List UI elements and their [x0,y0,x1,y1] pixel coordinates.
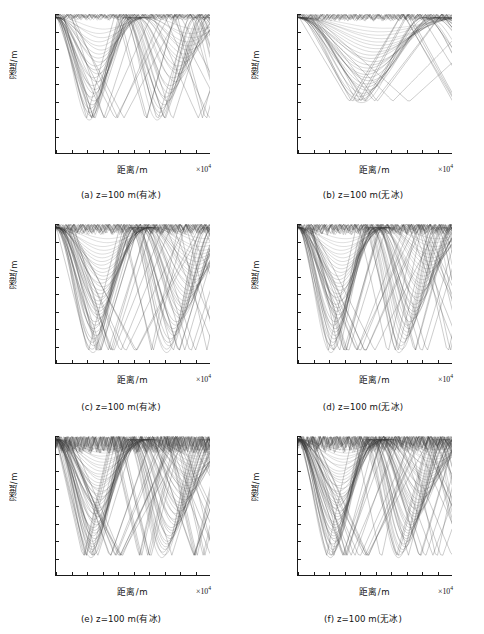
x-axis-multiplier-b: ×104 [438,163,453,174]
plot-area-b: 05001 0001 5002 0002 5003 0003 5004 0000… [297,14,452,154]
plot-area-f: 05001 0001 5002 0002 5003 0003 5004 0000… [297,436,452,576]
ray-paths-c [56,224,210,363]
y-tick-mark [56,224,59,225]
x-tick-mark [345,360,346,363]
x-tick-mark [72,150,73,153]
x-tick-mark [298,150,299,153]
x-tick-mark [422,572,423,575]
x-tick-mark [72,572,73,575]
y-tick-mark [56,559,59,560]
x-axis-label-d: 距离/m [297,373,452,385]
x-tick-mark [103,150,104,153]
figure-row-1: 深度/m 05001 0001 5002 0002 5003 0003 5004… [0,0,484,210]
y-tick-mark [298,294,301,295]
x-tick-mark [360,150,361,153]
panel-caption-e: (e) z=100 m(有冰) [0,612,242,624]
x-tick-mark [103,572,104,575]
x-tick-mark [360,572,361,575]
x-axis-label-c: 距离/m [55,373,210,385]
y-tick-mark [56,312,59,313]
y-tick-mark [56,489,59,490]
x-tick-mark [391,572,392,575]
x-tick-mark [391,150,392,153]
x-tick-mark [165,360,166,363]
x-tick-mark [180,360,181,363]
x-tick-mark [391,360,392,363]
y-tick-mark [298,436,301,437]
y-tick-mark [298,84,301,85]
x-tick-mark [298,572,299,575]
y-tick-mark [298,259,301,260]
y-tick-mark [56,436,59,437]
x-tick-mark [376,150,377,153]
panel-b: 深度/m 05001 0001 5002 0002 5003 0003 5004… [242,0,484,210]
y-tick-mark [298,347,301,348]
figure-row-3: 深度/m 05001 0001 5002 0002 5003 0003 5004… [0,422,484,634]
x-axis-label-f: 距离/m [297,585,452,597]
y-tick-mark [298,471,301,472]
x-tick-mark [407,150,408,153]
x-tick-mark [376,360,377,363]
figure-row-2: 深度/m 05001 0001 5002 0002 5003 0003 5004… [0,210,484,422]
x-tick-mark [149,360,150,363]
y-tick-mark [56,471,59,472]
y-tick-mark [298,242,301,243]
y-tick-mark [56,14,59,15]
ray-paths-f [298,436,452,575]
y-axis-label-f: 深度/m [250,472,262,501]
x-tick-mark [134,360,135,363]
ray-trace-figure: 深度/m 05001 0001 5002 0002 5003 0003 5004… [0,0,484,634]
x-tick-mark [118,572,119,575]
x-tick-mark [329,360,330,363]
x-tick-mark [149,150,150,153]
x-tick-mark [87,572,88,575]
y-tick-mark [298,506,301,507]
x-tick-mark [438,572,439,575]
plot-area-a: 05001 0001 5002 0002 5003 0003 5004 0000… [55,14,210,154]
y-tick-mark [56,32,59,33]
x-tick-mark [180,150,181,153]
y-tick-mark [298,489,301,490]
x-axis-multiplier-f: ×104 [438,585,453,596]
panel-a: 深度/m 05001 0001 5002 0002 5003 0003 5004… [0,0,242,210]
y-tick-mark [56,541,59,542]
panel-caption-a: (a) z=100 m(有冰) [0,188,242,200]
x-tick-mark [180,572,181,575]
x-tick-mark [438,150,439,153]
ray-paths-a [56,14,210,153]
ray-paths-d [298,224,452,363]
x-axis-multiplier-e: ×104 [196,585,211,596]
x-tick-mark [438,360,439,363]
y-tick-mark [298,559,301,560]
panel-d: 深度/m 05001 0001 5002 0002 5003 0003 5004… [242,210,484,422]
y-tick-mark [56,102,59,103]
x-tick-mark [149,572,150,575]
x-tick-mark [314,572,315,575]
panel-c: 深度/m 05001 0001 5002 0002 5003 0003 5004… [0,210,242,422]
x-tick-mark [56,150,57,153]
x-tick-mark [422,150,423,153]
y-tick-mark [56,294,59,295]
x-tick-mark [87,360,88,363]
y-tick-mark [298,137,301,138]
panel-e: 深度/m 05001 0001 5002 0002 5003 0003 5004… [0,422,242,634]
y-tick-mark [298,67,301,68]
x-axis-multiplier-c: ×104 [196,373,211,384]
y-tick-mark [56,67,59,68]
y-tick-mark [56,49,59,50]
x-tick-mark [103,360,104,363]
y-tick-mark [298,312,301,313]
ray-paths-b [298,14,452,153]
y-tick-mark [56,259,59,260]
y-axis-label-b: 深度/m [250,50,262,79]
x-axis-label-e: 距离/m [55,585,210,597]
x-tick-mark [407,572,408,575]
y-tick-mark [56,242,59,243]
plot-area-e: 05001 0001 5002 0002 5003 0003 5004 0000… [55,436,210,576]
y-tick-mark [56,524,59,525]
plot-area-d: 05001 0001 5002 0002 5003 0003 5004 0000… [297,224,452,364]
y-tick-mark [56,454,59,455]
plot-area-c: 05001 0001 5002 0002 5003 0003 5004 0000… [55,224,210,364]
x-tick-mark [165,150,166,153]
x-tick-mark [345,150,346,153]
